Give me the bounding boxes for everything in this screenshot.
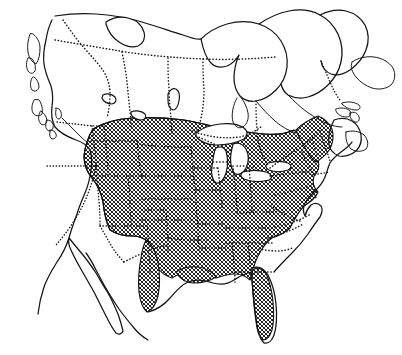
map-canvas xyxy=(0,0,402,355)
lake-erie xyxy=(241,171,272,182)
lake-ontario xyxy=(266,162,291,172)
distribution-range-map xyxy=(0,0,402,355)
